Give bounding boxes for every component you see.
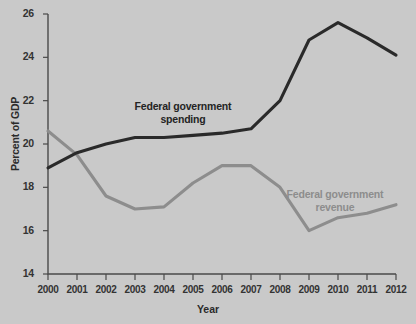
series-label-revenue-line2: revenue	[260, 201, 410, 214]
chart-container: 26242220181614 2000200120022003200420052…	[0, 0, 416, 324]
series-label-spending-line2: spending	[108, 113, 258, 126]
y-tick-label: 24	[8, 50, 34, 62]
x-tick-marks	[48, 274, 396, 280]
y-axis-title: Percent of GDP	[9, 94, 21, 174]
line-federal-government-spending	[48, 23, 396, 168]
series-label-revenue: Federal government revenue	[260, 188, 410, 214]
axis-lines	[48, 14, 396, 274]
y-tick-label: 18	[8, 180, 34, 192]
y-tick-label: 16	[8, 224, 34, 236]
series-label-revenue-line1: Federal government	[260, 188, 410, 201]
y-tick-label: 14	[8, 267, 34, 279]
series-label-spending-line1: Federal government	[108, 100, 258, 113]
series-label-spending: Federal government spending	[108, 100, 258, 126]
y-tick-marks	[43, 14, 48, 274]
x-axis-title: Year	[0, 303, 416, 315]
y-tick-label: 26	[8, 7, 34, 19]
chart-plot-area	[0, 0, 416, 324]
x-tick-label: 2012	[379, 284, 413, 295]
